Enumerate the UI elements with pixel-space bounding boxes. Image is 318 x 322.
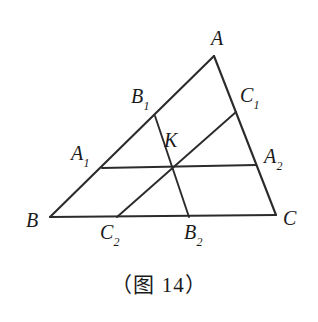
label-point-C1-sub: 1 (254, 98, 260, 112)
label-point-B1: B1 (131, 86, 149, 109)
label-point-C1: C1 (240, 85, 260, 108)
label-point-B: B (26, 210, 38, 233)
figure-container: A B C A1 A2 B1 B2 C1 C2 K （图 14） (0, 0, 318, 322)
segment-side-AC (214, 56, 276, 215)
label-point-B2-base: B (184, 221, 196, 243)
label-point-B2-sub: 2 (196, 235, 202, 249)
label-point-C-base: C (283, 207, 297, 229)
label-point-A-base: A (211, 27, 223, 49)
label-point-C2-sub: 2 (114, 235, 120, 249)
label-point-A1-sub: 1 (83, 156, 89, 170)
label-point-B-base: B (26, 209, 38, 231)
label-point-B2: B2 (184, 222, 202, 245)
label-point-A2-sub: 2 (276, 159, 282, 173)
label-point-K-base: K (164, 129, 178, 151)
segment-cevian-C1-C2 (117, 112, 236, 217)
label-point-C: C (283, 208, 297, 231)
label-point-A2: A2 (264, 146, 282, 169)
label-point-A1: A1 (71, 143, 89, 166)
label-point-C1-base: C (240, 84, 254, 106)
label-point-K: K (164, 130, 178, 153)
label-point-A2-base: A (264, 145, 276, 167)
label-point-B1-sub: 1 (143, 99, 149, 113)
segment-cevian-A1-A2 (102, 165, 256, 168)
segment-side-BC (50, 215, 276, 217)
figure-caption: （图 14） (0, 268, 318, 298)
label-point-B1-base: B (131, 85, 143, 107)
label-point-A: A (211, 28, 223, 51)
label-point-A1-base: A (71, 142, 83, 164)
label-point-C2: C2 (100, 222, 120, 245)
segment-side-AB (50, 56, 214, 217)
label-point-C2-base: C (100, 221, 114, 243)
